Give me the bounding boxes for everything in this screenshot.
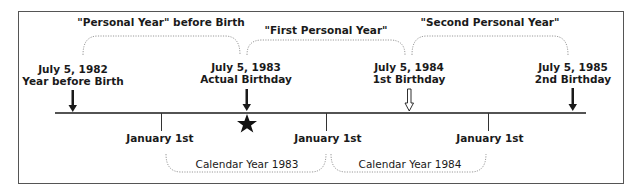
- birthday-date-1985: July 5, 1985: [537, 61, 608, 73]
- timeline-diagram: "Personal Year" before Birth "First Pers…: [0, 0, 643, 194]
- january-label-1984: January 1st: [293, 132, 361, 144]
- personal-year-label-before-birth: "Personal Year" before Birth: [77, 16, 245, 28]
- january-label-1983: January 1st: [125, 132, 193, 144]
- birthday-date-1984: July 5, 1984: [373, 61, 444, 73]
- personal-year-label-second: "Second Personal Year": [420, 16, 559, 28]
- birthday-date-1983: July 5, 1983: [210, 61, 281, 73]
- diagram-frame: [19, 12, 624, 184]
- birthday-date-1982: July 5, 1982: [37, 63, 108, 75]
- birthday-caption-1984: 1st Birthday: [373, 73, 446, 85]
- calendar-year-label-1983: Calendar Year 1983: [196, 158, 299, 170]
- personal-year-label-first: "First Personal Year": [264, 24, 387, 36]
- birthday-caption-1982: Year before Birth: [21, 75, 123, 87]
- calendar-year-label-1984: Calendar Year 1984: [359, 158, 462, 170]
- birthday-caption-1985: 2nd Birthday: [535, 73, 612, 85]
- january-label-1985: January 1st: [455, 132, 523, 144]
- birthday-caption-1983: Actual Birthday: [200, 73, 292, 85]
